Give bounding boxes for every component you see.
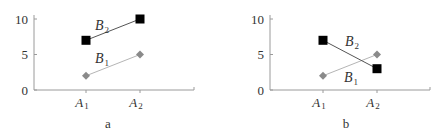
series-label-b1: B1 (95, 51, 109, 68)
panel-label: a (105, 116, 111, 131)
interaction-plots: 0510A1A2B2B1a0510A1A2B2B1b (0, 0, 446, 134)
square-marker (373, 64, 382, 73)
diamond-marker (319, 72, 327, 80)
y-tick-label: 5 (258, 47, 265, 62)
x-tick-label: A2 (128, 95, 142, 111)
series-label-b2: B2 (95, 18, 109, 35)
x-tick-label: A2 (365, 95, 379, 111)
square-marker (319, 36, 328, 45)
x-tick-label: A1 (74, 95, 88, 111)
y-tick-label: 10 (15, 12, 28, 27)
series-label-b1: B1 (344, 70, 358, 87)
square-marker (82, 36, 91, 45)
y-tick-label: 5 (22, 47, 29, 62)
series-label-b2: B2 (345, 34, 359, 51)
diamond-marker (136, 51, 144, 59)
panel-label: b (343, 116, 350, 131)
y-tick-label: 0 (22, 83, 29, 98)
square-marker (136, 15, 145, 24)
x-tick-label: A1 (311, 95, 325, 111)
diamond-marker (82, 72, 90, 80)
chart-panel-b: 0510A1A2B2B1b (251, 12, 430, 132)
y-tick-label: 10 (251, 12, 264, 27)
chart-panel-a: 0510A1A2B2B1a (15, 12, 194, 132)
diamond-marker (373, 51, 381, 59)
y-tick-label: 0 (258, 83, 265, 98)
